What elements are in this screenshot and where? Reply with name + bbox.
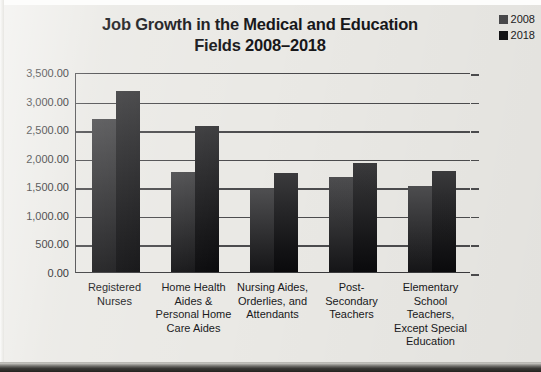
y-axis-tick-label: 3,000.00 <box>0 96 69 108</box>
y-axis-tick-label: 3,500.00 <box>0 67 69 79</box>
bar-group <box>92 74 140 272</box>
x-axis-category-label-line: Teachers, <box>382 308 479 322</box>
bar-2018 <box>116 91 140 272</box>
bar-2018 <box>432 171 456 272</box>
bar-2018 <box>195 126 219 272</box>
x-axis-category-label-line: Care Aides <box>145 322 242 336</box>
y-axis-tick-mark <box>471 103 479 105</box>
y-axis-tick-mark <box>471 188 479 190</box>
y-axis-tick-label: 1,000.00 <box>0 210 69 222</box>
bar-group <box>329 74 377 272</box>
bar-group <box>408 74 456 272</box>
y-axis-tick-label: 1,500.00 <box>0 181 69 193</box>
bar-group <box>171 74 219 272</box>
chart-page: Job Growth in the Medical and Education … <box>0 0 541 372</box>
bar-2018 <box>353 163 377 272</box>
y-axis-tick-mark <box>471 245 479 247</box>
x-axis-category-label-line: Education <box>382 335 479 349</box>
y-axis-tick-mark <box>471 160 479 162</box>
chart-title-line-2: Fields 2008–2018 <box>40 35 480 56</box>
bar-2008 <box>250 190 274 272</box>
chart-title: Job Growth in the Medical and Education … <box>40 14 480 56</box>
x-axis-category-label-line: Except Special <box>382 322 479 336</box>
bar-2018 <box>274 173 298 272</box>
plot-area <box>75 73 470 273</box>
legend-label: 2018 <box>511 29 535 41</box>
y-axis-tick-mark <box>471 217 479 219</box>
legend-swatch-icon <box>499 15 508 24</box>
y-axis-tick-mark <box>471 74 479 76</box>
y-axis-tick-label: 0.00 <box>0 267 69 279</box>
x-axis-category-label: ElementarySchoolTeachers,Except SpecialE… <box>382 281 479 349</box>
legend-item-2018: 2018 <box>499 28 535 42</box>
y-axis-tick-label: 2,500.00 <box>0 124 69 136</box>
x-axis-category-label-line: Elementary <box>382 281 479 295</box>
bar-group <box>250 74 298 272</box>
legend-swatch-icon <box>499 31 508 40</box>
y-axis-tick-label: 2,000.00 <box>0 153 69 165</box>
chart-legend: 20082018 <box>499 12 535 44</box>
legend-label: 2008 <box>511 13 535 25</box>
bar-2008 <box>329 177 353 272</box>
page-edge-bottom <box>0 363 541 372</box>
y-axis-tick-label: 500.00 <box>0 238 69 250</box>
bar-2008 <box>408 186 432 272</box>
page-edge-left <box>0 0 4 372</box>
legend-item-2008: 2008 <box>499 12 535 26</box>
y-axis-tick-mark <box>471 131 479 133</box>
x-axis-category-label-line: School <box>382 295 479 309</box>
bar-2008 <box>92 119 116 272</box>
chart-title-line-1: Job Growth in the Medical and Education <box>102 15 418 33</box>
bar-2008 <box>171 172 195 272</box>
page-edge-top <box>0 0 541 5</box>
y-axis-tick-mark <box>471 274 479 276</box>
